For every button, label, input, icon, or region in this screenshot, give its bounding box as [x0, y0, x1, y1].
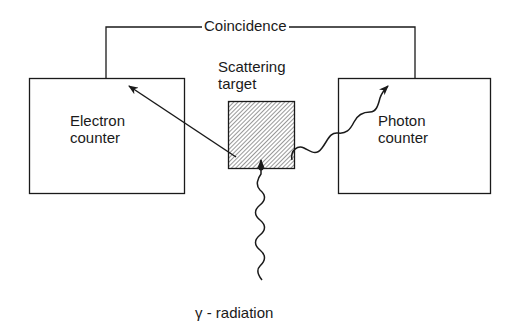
photon-counter-label-line2: counter: [378, 129, 428, 146]
electron-counter-label-line1: Electron: [70, 112, 125, 129]
scattering-target-label-line1: Scattering: [218, 58, 286, 75]
photon-counter-label-line1: Photon: [378, 112, 428, 129]
scattering-target-box: [229, 102, 295, 169]
diagram-canvas: [0, 0, 516, 325]
electron-counter-label-line2: counter: [70, 129, 125, 146]
scattering-target-label-line2: target: [218, 75, 286, 92]
electron-counter-label: Electron counter: [70, 112, 125, 146]
interaction-point: [259, 166, 264, 171]
gamma-wavy-arrow: [256, 160, 265, 280]
coincidence-label: Coincidence: [202, 17, 289, 34]
photon-counter-label: Photon counter: [378, 112, 428, 146]
gamma-radiation-label: γ - radiation: [195, 304, 273, 321]
scattering-target-label: Scattering target: [218, 58, 286, 92]
